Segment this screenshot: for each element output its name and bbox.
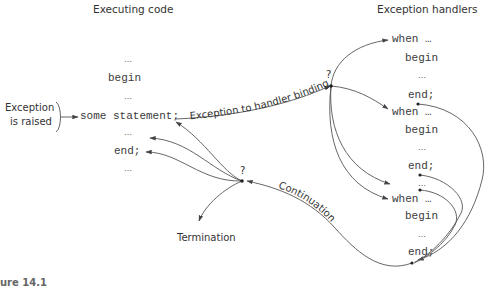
continuation-label: Continuation xyxy=(277,179,337,223)
figure-caption: ure 14.1 xyxy=(0,277,47,288)
binding-label: Exception to handler binding xyxy=(189,77,330,121)
